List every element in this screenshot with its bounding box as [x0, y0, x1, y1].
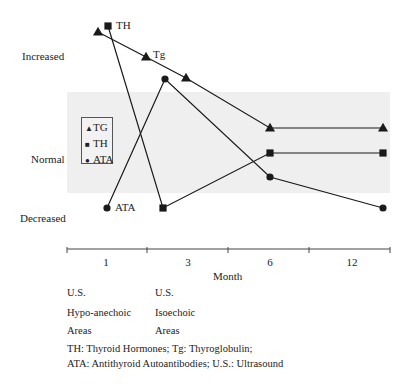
point-label-tg: Tg [153, 48, 165, 60]
footnote-line-2: ATA: Antithyroid Autoantibodies; U.S.: U… [67, 358, 283, 369]
square-marker [380, 150, 386, 156]
legend-item-tg: ▲TG [85, 120, 112, 136]
annotation-iso: Isoechoic [155, 307, 195, 318]
circle-marker [162, 76, 168, 82]
tick-label-3: 3 [168, 256, 208, 268]
square-marker [105, 23, 111, 29]
square-icon: ■ [85, 138, 93, 152]
y-label-increased: Increased [22, 50, 64, 62]
legend-item-ata: ●ATA [85, 152, 112, 168]
triangle-marker [94, 28, 102, 35]
circle-marker [380, 205, 386, 211]
triangle-marker [182, 74, 190, 81]
x-axis-title: Month [213, 270, 242, 282]
circle-marker [267, 174, 273, 180]
annotation-areas-1: Areas [67, 325, 92, 336]
tick-label-12: 12 [332, 256, 372, 268]
legend: ▲TG ■TH ●ATA [81, 117, 113, 164]
x-axis [67, 247, 390, 253]
y-label-normal: Normal [31, 153, 65, 165]
square-marker [267, 150, 273, 156]
annotation-hypo: Hypo-anechoic [67, 307, 131, 318]
legend-item-th: ■TH [85, 136, 112, 152]
triangle-marker [142, 53, 150, 60]
annotation-areas-3: Areas [155, 325, 180, 336]
circle-marker [104, 205, 110, 211]
tick-label-6: 6 [250, 256, 290, 268]
tick-label-1: 1 [86, 256, 126, 268]
triangle-icon: ▲ [85, 122, 93, 136]
annotation-us-3: U.S. [155, 287, 174, 298]
footnote-line-1: TH: Thyroid Hormones; Tg: Thyroglobulin; [67, 343, 253, 354]
y-label-decreased: Decreased [20, 212, 66, 224]
point-label-ata: ATA [115, 201, 136, 213]
annotation-us-1: U.S. [67, 287, 86, 298]
square-marker [160, 205, 166, 211]
point-label-th: TH [116, 19, 131, 31]
normal-band [67, 92, 390, 193]
circle-icon: ● [85, 154, 93, 168]
